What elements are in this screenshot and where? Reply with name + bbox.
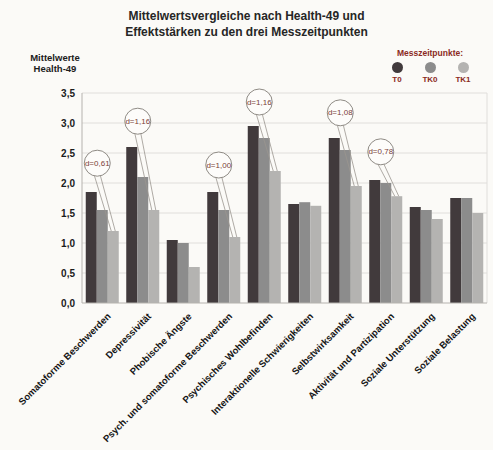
bar-T0-1 <box>126 147 137 303</box>
effect-size-label: d=1,16 <box>247 98 272 107</box>
effect-size-label: d=0,78 <box>368 147 393 156</box>
y-axis-tick-label: 3,5 <box>61 88 75 99</box>
bar-T0-2 <box>167 240 178 303</box>
y-axis-tick-label: 2,0 <box>61 178 75 189</box>
x-axis-label: Somatoforme Beschwerden <box>16 311 113 408</box>
bar-T0-0 <box>86 192 97 303</box>
bar-TK0-9 <box>461 198 472 303</box>
bar-TK1-4 <box>270 171 281 303</box>
bar-TK0-4 <box>259 138 270 303</box>
bar-T0-5 <box>288 204 299 303</box>
bar-TK1-1 <box>148 210 159 303</box>
x-axis-label: Soziale Unterstützung <box>358 311 436 389</box>
bar-TK0-2 <box>178 243 189 303</box>
y-axis-tick-label: 2,5 <box>61 148 75 159</box>
bar-TK1-0 <box>108 231 119 303</box>
bar-TK1-2 <box>189 267 200 303</box>
effect-size-label: d=1,16 <box>125 117 150 126</box>
effect-size-label: d=1,00 <box>206 161 231 170</box>
bar-chart: 0,00,51,01,52,02,53,03,5Somatoforme Besc… <box>0 0 493 450</box>
effect-size-label: d=0,61 <box>85 159 110 168</box>
bar-T0-7 <box>369 180 380 303</box>
bar-TK1-9 <box>472 213 483 303</box>
bar-TK1-8 <box>432 219 443 303</box>
y-axis-tick-label: 0,0 <box>61 298 75 309</box>
y-axis-tick-label: 3,0 <box>61 118 75 129</box>
bar-T0-9 <box>450 198 461 303</box>
bar-TK1-7 <box>391 196 402 303</box>
bar-TK0-0 <box>97 210 108 303</box>
bar-TK1-6 <box>351 186 362 303</box>
y-axis-tick-label: 1,5 <box>61 208 75 219</box>
chart-figure: Mittelwertsvergleiche nach Health-49 und… <box>0 0 493 450</box>
y-axis-tick-label: 1,0 <box>61 238 75 249</box>
bar-TK0-1 <box>137 177 148 303</box>
bar-TK1-5 <box>310 206 321 303</box>
effect-size-label: d=1,08 <box>328 108 353 117</box>
bar-TK0-7 <box>380 183 391 303</box>
bar-T0-8 <box>410 207 421 303</box>
bar-T0-3 <box>207 192 218 303</box>
y-axis-tick-label: 0,5 <box>61 268 75 279</box>
bar-T0-6 <box>329 138 340 303</box>
bar-TK0-3 <box>218 210 229 303</box>
bar-T0-4 <box>248 126 259 303</box>
bar-TK0-6 <box>340 150 351 303</box>
bar-TK1-3 <box>229 237 240 303</box>
bar-TK0-5 <box>299 202 310 303</box>
bar-TK0-8 <box>421 210 432 303</box>
